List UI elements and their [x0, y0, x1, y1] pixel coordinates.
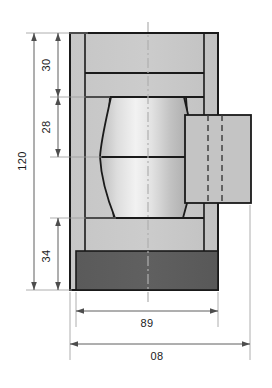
arrow-34-bottom [55, 282, 61, 290]
dimension-overall-height: 120 [16, 33, 37, 290]
dimension-inner-width: 89 [76, 308, 218, 329]
arrow-28-top [55, 97, 61, 105]
right-side-block [185, 115, 251, 203]
arrow-08-left [70, 341, 78, 347]
dim-label-28: 28 [40, 121, 52, 134]
technical-drawing: 120 30 28 34 89 08 [0, 0, 272, 388]
arrow-30-top [55, 33, 61, 41]
arrow-89-right [210, 308, 218, 314]
arrow-89-left [76, 308, 84, 314]
dim-label-34: 34 [40, 250, 52, 263]
dim-label-30: 30 [40, 59, 52, 72]
technical-drawing-canvas: 120 30 28 34 89 08 [0, 0, 272, 388]
arrow-30-bottom [55, 89, 61, 97]
arrow-34-top [55, 218, 61, 226]
dimension-middle-section: 28 [40, 97, 61, 157]
arrow-08-right [242, 341, 250, 347]
dim-label-08: 08 [151, 350, 164, 362]
dimension-overall-width: 08 [70, 341, 250, 362]
dimension-top-section: 30 [40, 33, 61, 97]
arrow-28-bottom [55, 149, 61, 157]
dark-base-block [76, 251, 218, 290]
dim-label-120: 120 [16, 151, 28, 170]
dimension-bottom-section: 34 [40, 218, 61, 290]
arrow-120-bottom [31, 282, 37, 290]
arrow-120-top [31, 33, 37, 41]
dim-label-89: 89 [141, 317, 154, 329]
